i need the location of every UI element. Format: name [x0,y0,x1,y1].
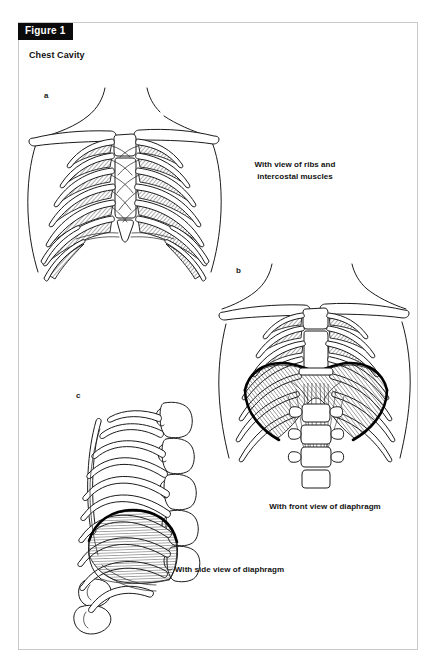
figure-title: Chest Cavity [29,50,85,60]
caption-panel-a-line1: With view of ribs and [215,159,375,171]
illustration-panel-c [56,395,226,635]
caption-panel-b: With front view of diaphragm [240,501,410,513]
caption-panel-a-line2: intercostal muscles [215,171,375,183]
caption-panel-a: With view of ribs and intercostal muscle… [215,159,375,182]
illustration-panel-a [14,86,229,281]
sternum-a [114,134,136,242]
caption-panel-c-line1: With side view of diaphragm [142,564,317,576]
sternum-b [303,308,328,371]
caption-panel-b-line1: With front view of diaphragm [240,501,410,513]
figure-number-tag: Figure 1 [18,23,73,40]
lumbar-vertebrae-b [288,404,343,488]
illustration-panel-b [216,262,416,492]
caption-panel-c: With side view of diaphragm [142,564,317,576]
